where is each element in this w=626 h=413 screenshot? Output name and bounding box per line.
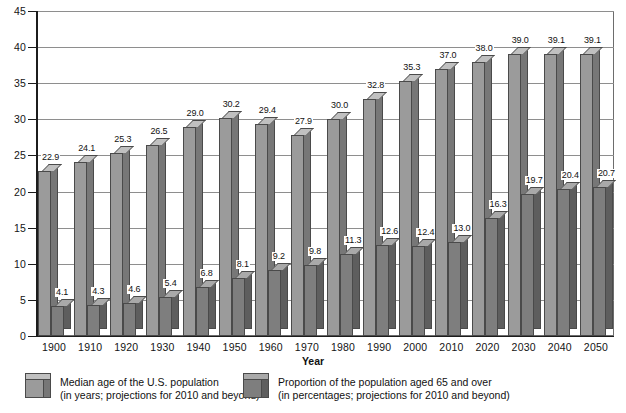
bar-value-label: 39.0	[511, 36, 530, 45]
legend-swatch-cube-icon	[25, 373, 51, 399]
y-tick-label: 30	[0, 114, 26, 124]
y-tick-mark	[28, 119, 36, 120]
bar-value-label: 16.3	[489, 200, 508, 209]
y-tick-label: 0	[0, 331, 26, 341]
gridline	[36, 11, 614, 12]
bar-value-label: 25.3	[113, 135, 132, 144]
bar-proportion-65plus-2040	[557, 182, 577, 336]
bar-value-label: 24.1	[77, 144, 96, 153]
y-tick-mark	[28, 300, 36, 301]
y-tick-label: 20	[0, 187, 26, 197]
bar-proportion-65plus-1980	[340, 247, 360, 336]
y-tick-mark	[28, 83, 36, 84]
bar-value-label: 4.1	[55, 288, 69, 297]
legend-label-line1: Median age of the U.S. population	[60, 376, 260, 389]
y-tick-mark	[28, 155, 36, 156]
y-tick-mark	[28, 264, 36, 265]
bar-value-label: 37.0	[438, 51, 457, 60]
legend-swatch-cube-icon	[243, 373, 269, 399]
bar-value-label: 8.1	[236, 260, 250, 269]
bar-value-label: 39.1	[583, 36, 602, 45]
legend-item-text: Proportion of the population aged 65 and…	[278, 372, 510, 401]
bar-proportion-65plus-1930	[159, 290, 179, 336]
bar-proportion-65plus-1990	[376, 238, 396, 336]
bar-proportion-65plus-1940	[196, 280, 216, 336]
y-tick-label: 45	[0, 6, 26, 16]
bar-value-label: 30.0	[330, 101, 349, 110]
bar-proportion-65plus-2000	[412, 239, 432, 336]
bar-value-label: 35.3	[402, 63, 421, 72]
bar-proportion-65plus-2030	[521, 187, 541, 336]
bar-value-label: 20.7	[597, 169, 616, 178]
y-tick-label: 35	[0, 78, 26, 88]
bar-proportion-65plus-1900	[51, 299, 71, 336]
legend-label-line1: Proportion of the population aged 65 and…	[278, 376, 510, 389]
y-tick-mark	[28, 47, 36, 48]
bar-proportion-65plus-1920	[123, 296, 143, 336]
y-tick-mark	[28, 228, 36, 229]
bar-value-label: 19.7	[525, 176, 544, 185]
bar-value-label: 20.4	[561, 171, 580, 180]
bar-value-label: 12.6	[380, 227, 399, 236]
y-tick-label: 15	[0, 223, 26, 233]
bar-value-label: 5.4	[163, 279, 177, 288]
y-tick-mark	[28, 192, 36, 193]
legend-label-line2: (in percentages; projections for 2010 an…	[278, 389, 510, 402]
bar-proportion-65plus-1970	[304, 258, 324, 336]
legend-item-text: Median age of the U.S. population (in ye…	[60, 372, 260, 401]
legend-item-proportion-65plus: Proportion of the population aged 65 and…	[243, 372, 510, 401]
bar-value-label: 30.2	[222, 100, 241, 109]
bar-value-label: 4.3	[91, 287, 105, 296]
chart-container: 051015202530354045 22.94.124.14.325.34.6…	[0, 0, 626, 413]
bar-value-label: 12.4	[416, 228, 435, 237]
x-axis-line	[36, 336, 614, 337]
bar-proportion-65plus-1910	[87, 298, 107, 336]
chart-legend: Median age of the U.S. population (in ye…	[0, 372, 626, 412]
bar-value-label: 38.0	[475, 44, 494, 53]
bar-value-label: 9.2	[272, 252, 286, 261]
y-tick-label: 25	[0, 150, 26, 160]
bar-value-label: 11.3	[344, 236, 362, 245]
bar-value-label: 9.8	[308, 247, 322, 256]
bar-value-label: 26.5	[149, 127, 168, 136]
bar-proportion-65plus-2050	[593, 180, 613, 337]
bar-value-label: 6.8	[200, 269, 214, 278]
x-axis-title: Year	[0, 355, 626, 367]
bar-proportion-65plus-1960	[268, 263, 288, 336]
bar-value-label: 27.9	[294, 117, 313, 126]
y-tick-mark	[28, 336, 36, 337]
bar-value-label: 4.6	[127, 285, 141, 294]
bar-value-label: 29.0	[186, 109, 205, 118]
bar-value-label: 13.0	[452, 224, 471, 233]
y-tick-label: 5	[0, 295, 26, 305]
bar-proportion-65plus-2010	[448, 235, 468, 336]
legend-label-line2: (in years; projections for 2010 and beyo…	[60, 389, 260, 402]
x-tick-label-2050: 2050	[574, 341, 618, 353]
bar-value-label: 32.8	[366, 81, 385, 90]
bar-value-label: 29.4	[258, 106, 277, 115]
bar-proportion-65plus-2020	[485, 211, 505, 336]
y-tick-label: 40	[0, 42, 26, 52]
y-tick-label: 10	[0, 259, 26, 269]
bar-value-label: 22.9	[41, 153, 60, 162]
bar-proportion-65plus-1950	[232, 271, 252, 337]
y-tick-mark	[28, 11, 36, 12]
bar-value-label: 39.1	[547, 36, 566, 45]
legend-item-median-age: Median age of the U.S. population (in ye…	[25, 372, 260, 401]
